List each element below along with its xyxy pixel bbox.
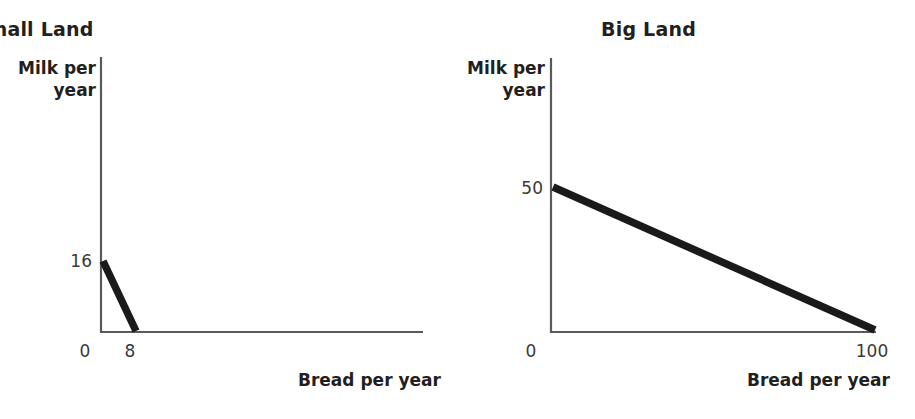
production-possibilities-figure: Small Land Milk per year 16 0 8 Bread pe… [0,0,915,419]
chart-panel-big-land: Big Land Milk per year 50 0 100 Bread pe… [458,0,915,419]
chart-panel-small-land: Small Land Milk per year 16 0 8 Bread pe… [0,0,457,419]
plot-area-small-land [0,0,457,419]
ppf-line-small-land [103,261,136,331]
plot-area-big-land [458,0,915,419]
ppf-line-big-land [553,187,875,330]
